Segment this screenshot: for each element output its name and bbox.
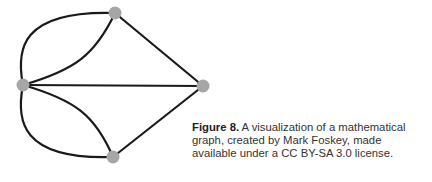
- caption-line-2: graph, created by Mark Foskey, made: [192, 134, 381, 146]
- caption-line-3: available under a CC BY-SA 3.0 license.: [192, 147, 393, 159]
- edge-top-right: [115, 13, 203, 86]
- caption-line-1: A visualization of a mathematical: [239, 121, 405, 133]
- edge-left-top-outer: [21, 13, 115, 85]
- edge-left-bottom-inner: [23, 85, 113, 157]
- edge-bottom-right: [113, 86, 203, 157]
- node-top: [109, 7, 122, 20]
- node-bottom: [107, 151, 120, 164]
- edge-left-right: [23, 85, 203, 86]
- node-right: [197, 80, 210, 93]
- node-left: [17, 79, 30, 92]
- edge-left-top-inner: [23, 13, 115, 85]
- edge-left-bottom-outer: [21, 85, 113, 157]
- figure-caption: Figure 8. A visualization of a mathemati…: [192, 121, 428, 161]
- figure-label: Figure 8.: [192, 121, 239, 133]
